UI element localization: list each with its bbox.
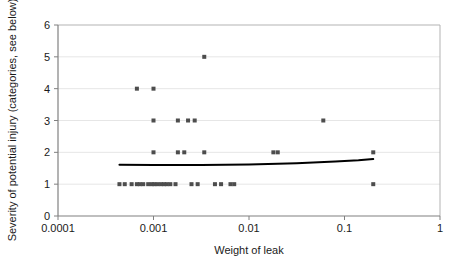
x-axis-title: Weight of leak bbox=[214, 244, 284, 256]
data-point bbox=[130, 182, 134, 186]
data-point bbox=[371, 182, 375, 186]
data-point bbox=[182, 150, 186, 154]
chart-canvas: 0123456 0.00010.0010.010.11 Weight of le… bbox=[0, 0, 457, 265]
data-point bbox=[176, 119, 180, 123]
data-point bbox=[228, 182, 232, 186]
y-tick-label: 3 bbox=[44, 115, 50, 127]
y-axis-tick-labels: 0123456 bbox=[44, 19, 50, 222]
data-point bbox=[193, 119, 197, 123]
y-tick-label: 6 bbox=[44, 19, 50, 31]
data-point bbox=[165, 182, 169, 186]
x-tick-label: 0.1 bbox=[337, 222, 352, 234]
data-point bbox=[174, 182, 178, 186]
data-point bbox=[141, 182, 145, 186]
data-point bbox=[155, 182, 159, 186]
y-axis-title: Severity of potential injury (categories… bbox=[6, 0, 18, 241]
data-point bbox=[232, 182, 236, 186]
data-point bbox=[186, 119, 190, 123]
scatter-chart: 0123456 0.00010.0010.010.11 Weight of le… bbox=[0, 0, 457, 265]
data-point bbox=[123, 182, 127, 186]
y-tick-label: 4 bbox=[44, 83, 50, 95]
data-point bbox=[152, 119, 156, 123]
data-point bbox=[202, 150, 206, 154]
data-point bbox=[117, 182, 121, 186]
y-tick-label: 2 bbox=[44, 146, 50, 158]
data-point bbox=[168, 182, 172, 186]
x-tick-label: 0.001 bbox=[140, 222, 168, 234]
data-point bbox=[371, 150, 375, 154]
y-tick-label: 5 bbox=[44, 51, 50, 63]
data-point bbox=[321, 119, 325, 123]
data-point bbox=[196, 182, 200, 186]
data-point bbox=[202, 55, 206, 59]
data-point bbox=[146, 182, 150, 186]
x-axis-tick-labels: 0.00010.0010.010.11 bbox=[41, 222, 443, 234]
x-tick-label: 0.01 bbox=[238, 222, 259, 234]
y-tick-label: 0 bbox=[44, 210, 50, 222]
y-tick-label: 1 bbox=[44, 178, 50, 190]
data-point bbox=[152, 87, 156, 91]
data-point bbox=[152, 150, 156, 154]
data-point bbox=[219, 182, 223, 186]
x-tick-label: 1 bbox=[437, 222, 443, 234]
data-point bbox=[176, 150, 180, 154]
data-point bbox=[213, 182, 217, 186]
data-point bbox=[271, 150, 275, 154]
data-point bbox=[190, 182, 194, 186]
x-tick-label: 0.0001 bbox=[41, 222, 75, 234]
data-point bbox=[135, 87, 139, 91]
x-axis-ticks bbox=[58, 216, 440, 220]
data-point bbox=[276, 150, 280, 154]
